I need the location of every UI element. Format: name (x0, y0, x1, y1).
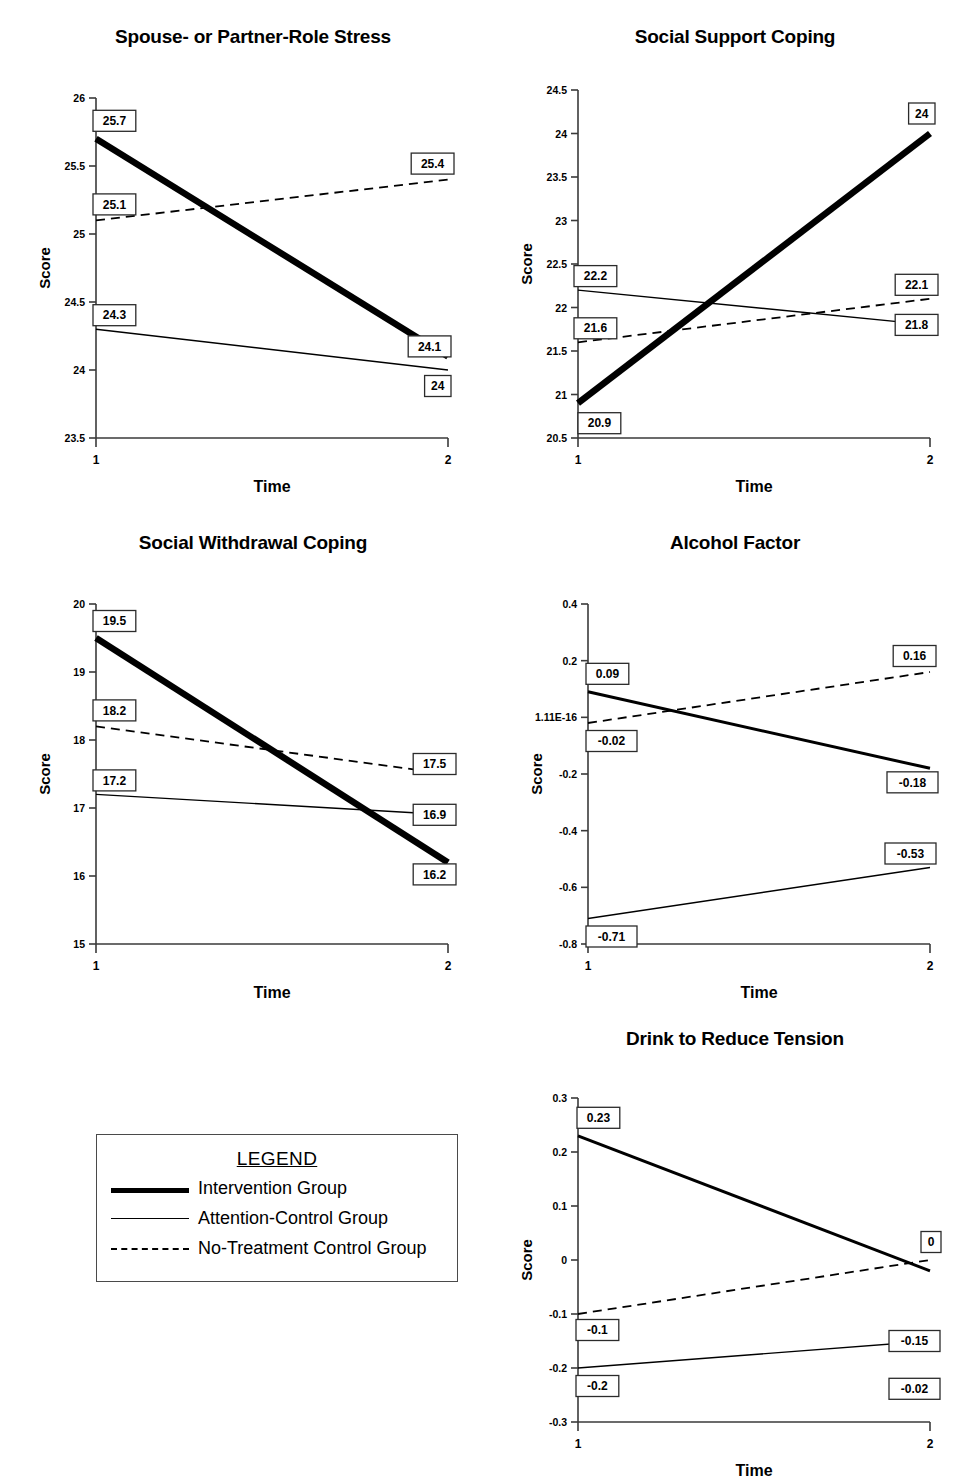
y-tick-label: 24.5 (547, 84, 568, 96)
svg-text:24: 24 (915, 107, 929, 121)
y-tick-label: 0 (561, 1254, 567, 1266)
data-point-label: -0.18 (887, 772, 938, 793)
svg-text:25.7: 25.7 (103, 114, 127, 128)
svg-text:24: 24 (431, 379, 445, 393)
chart-panel-social-withdrawal-coping: Social Withdrawal Coping 20191817161512S… (18, 532, 488, 1002)
svg-text:0: 0 (928, 1235, 935, 1249)
data-point-label: 21.6 (574, 318, 617, 339)
data-point-label: 16.2 (413, 864, 456, 885)
x-axis-label: Time (253, 984, 290, 1001)
x-axis-label: Time (735, 1462, 772, 1477)
legend-box: LEGEND Intervention Group Attention-Cont… (96, 1134, 458, 1282)
legend-swatch-thin-line-icon (111, 1211, 189, 1225)
series-line (588, 868, 930, 919)
data-point-label: 25.1 (93, 194, 136, 215)
svg-text:-0.18: -0.18 (899, 776, 927, 790)
x-tick-label: 1 (93, 959, 100, 973)
chart-title: Social Support Coping (500, 26, 970, 48)
series-line (578, 1260, 930, 1314)
data-point-label: 16.9 (413, 804, 456, 825)
y-tick-label: 15 (73, 938, 85, 950)
series-line (578, 299, 930, 343)
y-tick-label: 19 (73, 666, 85, 678)
x-tick-label: 2 (445, 959, 452, 973)
data-point-label: 0.23 (577, 1107, 620, 1128)
y-tick-label: 22.5 (547, 258, 568, 270)
svg-text:21.8: 21.8 (905, 318, 929, 332)
y-tick-label: 23.5 (547, 171, 568, 183)
y-tick-label: 21 (555, 389, 567, 401)
data-point-label: 24.3 (93, 305, 136, 326)
y-axis-label: Score (528, 753, 545, 795)
y-tick-label: 22 (555, 302, 567, 314)
data-point-label: -0.71 (586, 926, 637, 947)
x-axis-label: Time (740, 984, 777, 1001)
legend-title: LEGEND (97, 1148, 457, 1170)
chart-panel-social-support-coping: Social Support Coping 24.52423.52322.522… (500, 26, 970, 496)
data-point-label: 25.4 (411, 153, 454, 174)
chart-plot-area: 0.40.21.11E-16-0.2-0.4-0.6-0.812ScoreTim… (500, 554, 970, 994)
y-tick-label: 24.5 (65, 296, 86, 308)
y-tick-label: 20.5 (547, 432, 568, 444)
series-line (96, 180, 448, 221)
svg-text:-0.53: -0.53 (897, 847, 925, 861)
data-point-label: 24.1 (408, 336, 451, 357)
svg-text:24.3: 24.3 (103, 308, 127, 322)
series-line (578, 1341, 930, 1368)
series-line (96, 638, 448, 862)
svg-text:-0.02: -0.02 (901, 1382, 929, 1396)
svg-text:17.5: 17.5 (423, 757, 447, 771)
series-line (578, 290, 930, 325)
x-axis-label: Time (735, 478, 772, 495)
series-line (588, 672, 930, 723)
data-point-label: 24 (909, 103, 935, 124)
chart-panel-alcohol-factor: Alcohol Factor 0.40.21.11E-16-0.2-0.4-0.… (500, 532, 970, 1002)
data-point-label: 0.09 (586, 663, 629, 684)
chart-plot-area: 20191817161512ScoreTime19.516.217.216.91… (18, 554, 488, 994)
svg-text:-0.2: -0.2 (587, 1379, 608, 1393)
data-point-label: -0.02 (586, 731, 637, 752)
x-tick-label: 1 (575, 1437, 582, 1451)
y-tick-label: -0.2 (549, 1362, 567, 1374)
data-point-label: -0.2 (576, 1376, 619, 1397)
chart-plot-area: 0.30.20.10-0.1-0.2-0.312ScoreTime0.23-0.… (500, 1050, 970, 1470)
svg-text:-0.02: -0.02 (598, 734, 626, 748)
legend-item-label: Attention-Control Group (198, 1209, 388, 1227)
legend-item-label: Intervention Group (198, 1179, 347, 1197)
data-point-label: -0.02 (889, 1378, 940, 1399)
y-tick-label: 0.2 (552, 1146, 567, 1158)
svg-text:-0.1: -0.1 (587, 1323, 608, 1337)
series-line (578, 134, 930, 404)
chart-title: Drink to Reduce Tension (500, 1028, 970, 1050)
x-tick-label: 2 (927, 1437, 934, 1451)
data-point-label: 22.2 (574, 266, 617, 287)
y-tick-label: -0.4 (559, 825, 577, 837)
data-point-label: 17.2 (93, 770, 136, 791)
svg-text:16.9: 16.9 (423, 808, 447, 822)
y-axis-label: Score (518, 1239, 535, 1281)
x-tick-label: 1 (585, 959, 592, 973)
y-axis-label: Score (36, 753, 53, 795)
chart-title: Spouse- or Partner-Role Stress (18, 26, 488, 48)
svg-text:0.16: 0.16 (903, 649, 927, 663)
data-point-label: 21.8 (895, 314, 938, 335)
y-tick-label: -0.1 (549, 1308, 567, 1320)
chart-title: Alcohol Factor (500, 532, 970, 554)
svg-text:20.9: 20.9 (588, 416, 612, 430)
y-axis-label: Score (518, 243, 535, 285)
y-axis-label: Score (36, 247, 53, 289)
series-line (578, 1136, 930, 1271)
y-tick-label: -0.3 (549, 1416, 567, 1428)
svg-text:-0.71: -0.71 (598, 930, 626, 944)
y-tick-label: 24 (73, 364, 85, 376)
chart-plot-area: 2625.52524.52423.512ScoreTime25.724.124.… (18, 48, 488, 488)
svg-text:18.2: 18.2 (103, 704, 127, 718)
legend-swatch-thick-line-icon (111, 1181, 189, 1195)
svg-text:0.23: 0.23 (587, 1111, 611, 1125)
x-tick-label: 1 (93, 453, 100, 467)
series-line (96, 794, 448, 814)
data-point-label: -0.1 (576, 1320, 619, 1341)
chart-panel-drink-to-reduce-tension: Drink to Reduce Tension 0.30.20.10-0.1-0… (500, 1028, 970, 1477)
data-point-label: -0.53 (885, 843, 936, 864)
y-tick-label: 25 (73, 228, 85, 240)
